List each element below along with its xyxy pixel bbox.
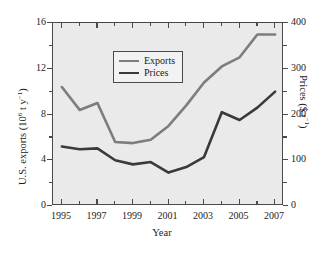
x-tick-major-top: [274, 22, 275, 28]
legend-swatch-exports: [119, 60, 139, 63]
y-tick-right-major: [283, 114, 288, 115]
legend-item-prices: Prices: [119, 67, 175, 79]
y-tick-right-major: [283, 205, 288, 206]
y-tick-left-minor: [49, 136, 53, 137]
y-tick-left-minor: [49, 91, 53, 92]
x-tick-minor: [256, 201, 257, 205]
x-tick-major-top: [132, 22, 133, 28]
x-tick-minor: [185, 201, 186, 205]
x-tick-minor: [114, 201, 115, 205]
x-tick-minor-top: [185, 22, 186, 26]
x-tick-major: [96, 199, 97, 205]
x-tick-major: [132, 199, 133, 205]
x-tick-major-top: [203, 22, 204, 28]
x-tick-major-top: [168, 22, 169, 28]
y-tick-label-left: 16: [16, 17, 46, 27]
x-tick-minor-top: [150, 22, 151, 26]
y-tick-right-major: [283, 159, 288, 160]
y-tick-label-right: 400: [291, 17, 321, 27]
x-tick-major: [274, 199, 275, 205]
x-tick-minor: [150, 201, 151, 205]
chart-figure: Exports Prices 1995199719992001200320052…: [0, 0, 324, 255]
y-tick-left-minor: [49, 45, 53, 46]
y-tick-left-major: [47, 114, 52, 115]
y-axis-left-title: U.S. exports (106 t y−1): [18, 88, 29, 185]
y-tick-right-minor: [283, 45, 287, 46]
legend-label-exports: Exports: [144, 56, 175, 66]
x-tick-label: 2007: [258, 211, 290, 221]
x-tick-major: [61, 199, 62, 205]
x-tick-minor-top: [256, 22, 257, 26]
x-tick-major-top: [239, 22, 240, 28]
x-tick-major-top: [96, 22, 97, 28]
legend-swatch-prices: [119, 72, 139, 75]
legend-label-prices: Prices: [144, 68, 168, 78]
x-tick-major: [203, 199, 204, 205]
y-tick-left-major: [47, 68, 52, 69]
x-tick-minor-top: [79, 22, 80, 26]
x-tick-label: 2003: [187, 211, 219, 221]
y-tick-right-minor: [283, 136, 287, 137]
x-tick-minor: [221, 201, 222, 205]
y-tick-right-major: [283, 68, 288, 69]
y-tick-right-minor: [283, 182, 287, 183]
x-tick-minor-top: [114, 22, 115, 26]
y-tick-left-major: [47, 22, 52, 23]
x-axis-title: Year: [0, 228, 324, 239]
y-tick-label-right: 0: [291, 200, 321, 210]
x-tick-major: [239, 199, 240, 205]
x-tick-minor: [79, 201, 80, 205]
x-tick-major: [168, 199, 169, 205]
y-tick-label-right: 300: [291, 63, 321, 73]
x-tick-label: 2001: [152, 211, 184, 221]
x-tick-label: 2005: [223, 211, 255, 221]
y-tick-label-left: 0: [16, 200, 46, 210]
x-tick-label: 1997: [80, 211, 112, 221]
x-tick-label: 1995: [45, 211, 77, 221]
x-tick-label: 1999: [116, 211, 148, 221]
y-tick-label-left: 12: [16, 63, 46, 73]
x-tick-minor-top: [221, 22, 222, 26]
y-tick-left-major: [47, 159, 52, 160]
y-axis-right-title: Prices ($ t−1): [298, 75, 309, 129]
y-tick-left-minor: [49, 182, 53, 183]
x-tick-major-top: [61, 22, 62, 28]
y-tick-label-right: 100: [291, 154, 321, 164]
plot-area: Exports Prices: [52, 22, 283, 205]
chart-legend: Exports Prices: [113, 51, 183, 83]
y-tick-right-minor: [283, 91, 287, 92]
y-tick-right-major: [283, 22, 288, 23]
y-tick-left-major: [47, 205, 52, 206]
legend-item-exports: Exports: [119, 55, 175, 67]
